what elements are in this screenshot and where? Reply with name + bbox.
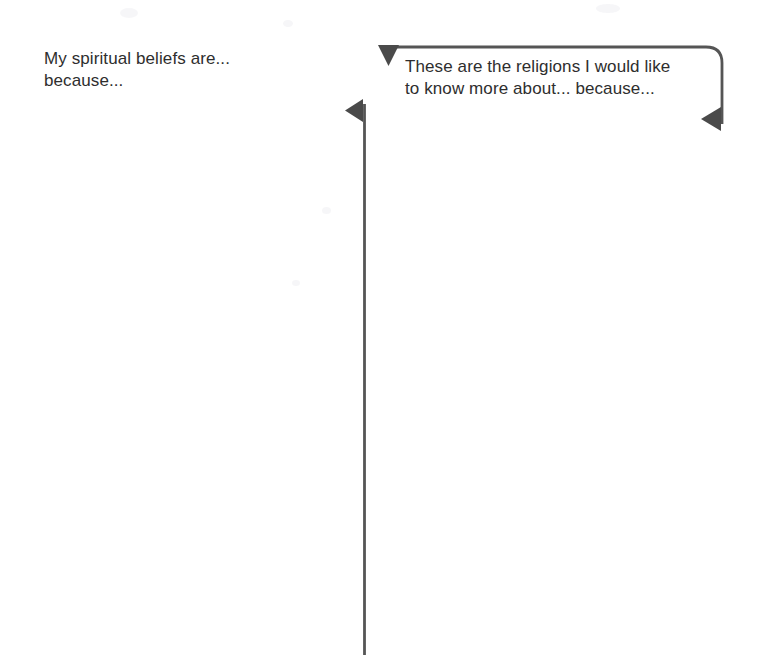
- scan-artifact: [292, 280, 300, 286]
- left-arrowhead-divider-icon: [345, 99, 363, 122]
- scan-artifact: [596, 4, 620, 13]
- scan-artifact: [283, 20, 293, 27]
- scan-artifact: [322, 207, 331, 214]
- prompt-religions-to-learn: These are the religions I would like to …: [405, 56, 705, 100]
- left-arrowhead-bracket-icon: [701, 107, 721, 131]
- prompt-spiritual-beliefs: My spiritual beliefs are... because...: [44, 48, 344, 92]
- down-arrowhead-bracket-icon: [378, 45, 399, 66]
- scan-artifact: [120, 8, 138, 18]
- worksheet-page: My spiritual beliefs are... because... T…: [0, 0, 771, 655]
